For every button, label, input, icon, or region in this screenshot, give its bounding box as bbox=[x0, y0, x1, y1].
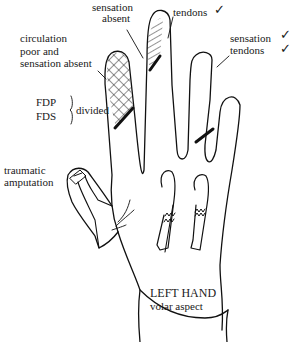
wrist-left bbox=[139, 290, 141, 342]
ring-injury-line bbox=[196, 129, 213, 142]
label-fds: FDS bbox=[36, 110, 56, 122]
suture-left-1 bbox=[165, 213, 175, 216]
suture-left-2 bbox=[164, 219, 174, 222]
wrist-right bbox=[226, 310, 228, 342]
splint-right bbox=[191, 175, 208, 250]
check-icon-ring-tendons: ✓ bbox=[280, 43, 291, 55]
suture-right-1 bbox=[195, 209, 205, 212]
label-amputation: amputation bbox=[4, 176, 54, 188]
label-traumatic: traumatic bbox=[4, 164, 46, 176]
label-fdp: FDP bbox=[36, 96, 56, 108]
diagram-title: LEFT HAND bbox=[150, 287, 216, 299]
fdp-fds-brace bbox=[70, 96, 72, 124]
check-icon-tendons-middle: ✓ bbox=[214, 4, 225, 16]
hand-diagram: sensation absent circulation poor and se… bbox=[0, 0, 298, 342]
thumb-stump-detail bbox=[70, 170, 86, 184]
splint-left-inner bbox=[165, 205, 173, 252]
diagram-subtitle: volar aspect bbox=[150, 300, 203, 312]
thumb-outline bbox=[67, 168, 118, 248]
label-divided: divided bbox=[76, 104, 109, 116]
check-icon-ring-sensation: ✓ bbox=[280, 29, 291, 41]
suture-right-2 bbox=[195, 213, 205, 216]
label-ring-sensation: sensation bbox=[230, 32, 271, 44]
label-circulation-1: circulation bbox=[20, 32, 67, 44]
label-ring-tendons: tendons bbox=[230, 44, 264, 56]
label-circulation-3: sensation absent bbox=[20, 57, 92, 69]
label-tendons-middle: tendons bbox=[173, 6, 207, 18]
leader-middle bbox=[127, 30, 143, 58]
label-circulation-2: poor and bbox=[20, 45, 59, 57]
label-sensation-absent-2: absent bbox=[102, 12, 130, 24]
leader-ring bbox=[217, 56, 229, 67]
